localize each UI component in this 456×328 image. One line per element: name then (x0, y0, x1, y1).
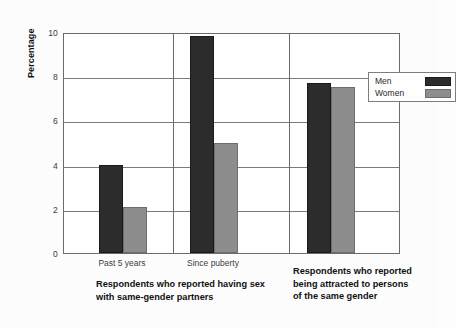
y-tick-2: 2 (53, 205, 58, 215)
caption-right-line2: being attracted to persons (293, 278, 438, 291)
legend: Men Women (368, 72, 456, 102)
caption-left-line1: Respondents who reported having sex (96, 278, 281, 291)
group-separator-2 (289, 34, 290, 253)
y-tick-10: 10 (48, 28, 58, 38)
y-tick-4: 4 (53, 161, 58, 171)
legend-swatch-women-icon (425, 89, 451, 98)
bar-past5years-men (99, 165, 123, 253)
legend-label-women: Women (375, 88, 404, 98)
y-axis-tick-labels: 0 2 4 6 8 10 (0, 33, 63, 254)
bar-past5years-women (123, 207, 147, 253)
bar-attracted-men (307, 83, 331, 253)
legend-swatch-men-icon (425, 77, 451, 86)
bar-sincepuberty-men (190, 36, 214, 253)
caption-left: Respondents who reported having sex with… (96, 278, 281, 303)
caption-right-line1: Respondents who reported (293, 265, 438, 278)
gridline-8 (64, 78, 399, 79)
bar-attracted-women (331, 87, 355, 253)
bar-sincepuberty-women (214, 143, 238, 254)
caption-right-line3: of the same gender (293, 290, 438, 303)
caption-right: Respondents who reported being attracted… (293, 265, 438, 303)
y-tick-8: 8 (53, 72, 58, 82)
group-separator-1 (173, 34, 174, 253)
legend-label-men: Men (375, 76, 392, 86)
x-label-since-puberty: Since puberty (187, 258, 239, 268)
caption-left-line2: with same-gender partners (96, 291, 281, 304)
legend-item-men: Men (375, 75, 451, 87)
plot-area: Men Women (63, 33, 400, 254)
y-tick-0: 0 (53, 249, 58, 259)
x-label-past-5-years: Past 5 years (98, 258, 145, 268)
y-tick-6: 6 (53, 116, 58, 126)
legend-item-women: Women (375, 87, 451, 99)
